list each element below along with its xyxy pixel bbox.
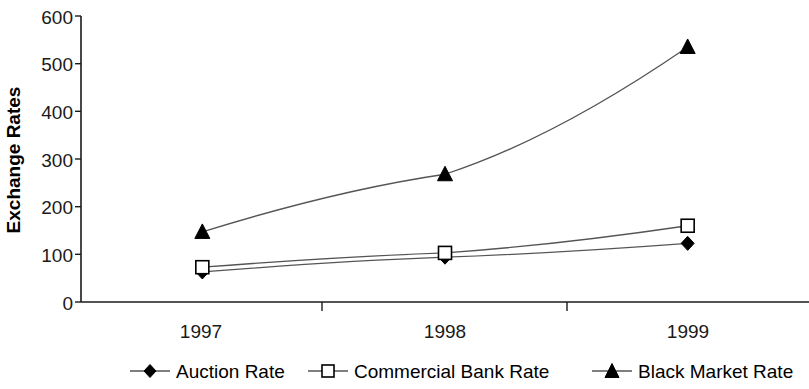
legend-label-commercial-bank-rate: Commercial Bank Rate (354, 361, 549, 382)
chart-canvas: Exchange Rates 600 500 400 300 200 100 0 (0, 0, 809, 389)
x-axis-tick-labels: 1997 1998 1999 (180, 321, 709, 342)
x-axis-ticks (322, 302, 567, 311)
x-tick-label-1997: 1997 (180, 321, 222, 342)
y-tick-label-200: 200 (41, 197, 73, 218)
legend-item-black-market-rate[interactable]: Black Market Rate (592, 361, 793, 382)
series-layer (195, 39, 695, 279)
series-black-market-rate (195, 39, 695, 238)
open-square-icon (322, 365, 334, 377)
y-tick-label-100: 100 (41, 245, 73, 266)
data-point-open-square (681, 219, 694, 232)
data-point-open-square (196, 261, 209, 274)
chart-legend: Auction Rate Commercial Bank Rate Black … (130, 361, 793, 382)
y-axis-tick-labels: 600 500 400 300 200 100 0 (41, 7, 73, 314)
data-point-filled-triangle (438, 166, 453, 181)
y-tick-label-300: 300 (41, 150, 73, 171)
y-tick-label-400: 400 (41, 102, 73, 123)
y-axis-ticks (75, 16, 81, 302)
legend-label-black-market-rate: Black Market Rate (638, 361, 793, 382)
x-tick-label-1999: 1999 (667, 321, 709, 342)
series-commercial-bank-rate (196, 219, 694, 273)
legend-label-auction-rate: Auction Rate (176, 361, 285, 382)
y-axis-title: Exchange Rates (3, 87, 24, 234)
series-line (202, 47, 687, 232)
filled-diamond-icon (144, 365, 156, 378)
y-tick-label-0: 0 (62, 293, 73, 314)
data-point-filled-triangle (680, 39, 695, 54)
data-point-filled-diamond (681, 236, 694, 250)
exchange-rates-line-chart: Exchange Rates 600 500 400 300 200 100 0 (0, 0, 809, 389)
y-tick-label-500: 500 (41, 54, 73, 75)
legend-item-auction-rate[interactable]: Auction Rate (130, 361, 285, 382)
data-point-filled-triangle (195, 224, 210, 239)
x-tick-label-1998: 1998 (424, 321, 466, 342)
legend-item-commercial-bank-rate[interactable]: Commercial Bank Rate (308, 361, 549, 382)
y-tick-label-600: 600 (41, 7, 73, 28)
data-point-open-square (439, 246, 452, 259)
